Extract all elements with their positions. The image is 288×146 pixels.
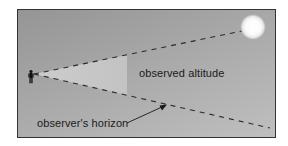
- horizon-arrow-icon: [127, 105, 167, 124]
- altitude-angle-wedge: [34, 55, 127, 95]
- observed-altitude-label: observed altitude: [139, 67, 224, 79]
- observer-figure-icon: [28, 70, 33, 83]
- sun-icon: [241, 15, 266, 40]
- observers-horizon-label: observer's horizon: [37, 117, 128, 129]
